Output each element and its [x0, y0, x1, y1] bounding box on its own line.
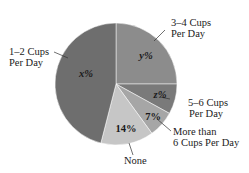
slice-pct-z: z%	[153, 89, 167, 100]
leader-line-none	[129, 143, 133, 155]
slice-pct-7: 7%	[145, 111, 161, 122]
label-5-6-line2: Per Day	[188, 108, 228, 119]
label-more-than-6: More than 6 Cups Per Day	[173, 126, 239, 148]
leader-line-3-4	[154, 30, 165, 41]
label-3-4-line1: 3–4 Cups	[171, 17, 211, 28]
label-more-than-6-line1: More than	[173, 126, 239, 137]
label-none: None	[124, 155, 147, 166]
label-1-2-line1: 1–2 Cups	[9, 46, 49, 57]
label-1-2-line2: Per Day	[9, 57, 49, 68]
label-3-4-line2: Per Day	[171, 28, 211, 39]
label-1-2-cups: 1–2 Cups Per Day	[9, 46, 49, 68]
label-3-4-cups: 3–4 Cups Per Day	[171, 17, 211, 39]
slice-pct-14: 14%	[116, 123, 137, 134]
label-more-than-6-line2: 6 Cups Per Day	[173, 137, 239, 148]
label-5-6-line1: 5–6 Cups	[188, 97, 228, 108]
slice-pct-y: y%	[137, 50, 153, 61]
slice-pct-x: x%	[78, 68, 93, 79]
label-5-6-cups: 5–6 Cups Per Day	[188, 97, 228, 119]
